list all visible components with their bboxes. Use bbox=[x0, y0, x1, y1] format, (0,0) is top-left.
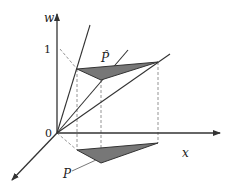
label-p: P bbox=[62, 167, 72, 181]
triangle-p bbox=[77, 143, 158, 163]
p-leader bbox=[72, 160, 96, 171]
label-w: w bbox=[44, 11, 55, 25]
label-p-hat: P̂ bbox=[100, 50, 110, 65]
depth-axis bbox=[12, 133, 57, 180]
label-one: 1 bbox=[44, 43, 51, 56]
label-x: x bbox=[182, 146, 189, 160]
cone-rays bbox=[57, 25, 170, 133]
label-origin: 0 bbox=[45, 127, 52, 140]
diagram-canvas: w 1 P̂ 0 x P bbox=[0, 0, 229, 195]
